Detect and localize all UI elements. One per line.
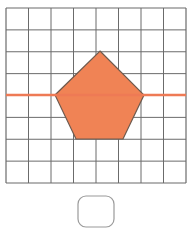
figure-canvas xyxy=(0,0,192,231)
answer-box-rect[interactable] xyxy=(78,196,114,227)
figure-root xyxy=(0,0,192,231)
answer-input-box[interactable] xyxy=(78,196,114,227)
